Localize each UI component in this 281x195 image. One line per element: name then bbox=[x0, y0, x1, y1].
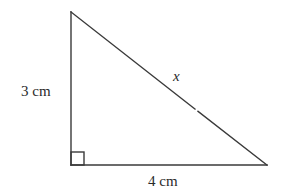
triangle bbox=[71, 12, 267, 165]
right-triangle-diagram: 3 cm 4 cm x bbox=[0, 0, 281, 195]
hypotenuse-upper bbox=[71, 12, 195, 109]
vertical-side-label: 3 cm bbox=[21, 83, 51, 99]
right-angle-marker bbox=[71, 152, 84, 165]
hypotenuse-label: x bbox=[172, 68, 180, 84]
horizontal-side-label: 4 cm bbox=[148, 173, 178, 189]
hypotenuse-lower bbox=[198, 111, 267, 165]
